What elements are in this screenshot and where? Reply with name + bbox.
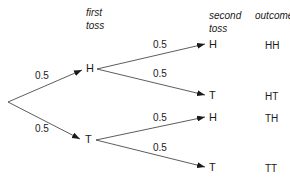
tree-branches [0,0,290,177]
prob-H-T: 0.5 [153,68,167,79]
outcome-HT: HT [265,91,278,102]
branch-T-to-T [96,140,205,167]
header-first-toss-line2: toss [86,19,104,32]
prob-H-H: 0.5 [153,39,167,50]
header-first-toss-line1: first [86,6,104,19]
branch-H-to-T [97,69,205,95]
prob-root-T: 0.5 [35,123,49,134]
outcome-TH: TH [265,113,278,124]
branch-H-to-H [97,44,205,69]
node-second-HT: T [209,90,216,101]
header-second-toss: second toss [209,9,241,35]
prob-T-H: 0.5 [153,112,167,123]
header-second-toss-line1: second [209,9,241,22]
header-outcome: outcome [255,9,290,22]
node-first-H: H [86,63,94,74]
outcome-HH: HH [265,40,279,51]
header-first-toss: first toss [86,6,104,32]
branch-T-to-H [96,117,205,140]
prob-root-H: 0.5 [35,70,49,81]
node-second-TT: T [209,162,216,173]
node-second-HH: H [209,39,217,50]
header-second-toss-line2: toss [209,22,241,35]
outcome-TT: TT [265,163,277,174]
prob-T-T: 0.5 [153,142,167,153]
node-first-T: T [85,134,92,145]
node-second-TH: H [209,112,217,123]
